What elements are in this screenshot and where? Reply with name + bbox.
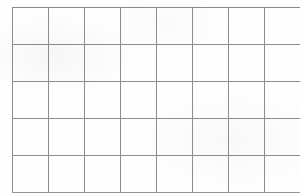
- grid-cell[interactable]: [229, 156, 265, 193]
- grid-cell[interactable]: [265, 45, 301, 82]
- grid-row: [13, 156, 301, 193]
- grid-cell[interactable]: [121, 156, 157, 193]
- blank-grid-table: [12, 7, 300, 193]
- grid-cell[interactable]: [121, 45, 157, 82]
- grid-cell[interactable]: [49, 8, 85, 45]
- grid-cell[interactable]: [193, 82, 229, 119]
- grid-cell[interactable]: [265, 82, 301, 119]
- grid-row: [13, 119, 301, 156]
- grid-cell[interactable]: [157, 119, 193, 156]
- grid-cell[interactable]: [193, 45, 229, 82]
- grid-cell[interactable]: [85, 156, 121, 193]
- grid-cell[interactable]: [49, 156, 85, 193]
- grid-cell[interactable]: [121, 119, 157, 156]
- grid-cell[interactable]: [157, 8, 193, 45]
- grid-cell[interactable]: [157, 82, 193, 119]
- grid-cell[interactable]: [49, 45, 85, 82]
- grid-cell[interactable]: [229, 8, 265, 45]
- grid-sheet: [0, 0, 300, 195]
- grid-cell[interactable]: [13, 8, 49, 45]
- grid-cell[interactable]: [229, 82, 265, 119]
- grid-cell[interactable]: [49, 82, 85, 119]
- grid-cell[interactable]: [13, 82, 49, 119]
- grid-cell[interactable]: [265, 156, 301, 193]
- grid-cell[interactable]: [193, 119, 229, 156]
- grid-cell[interactable]: [121, 8, 157, 45]
- grid-cell[interactable]: [193, 8, 229, 45]
- grid-row: [13, 8, 301, 45]
- grid-cell[interactable]: [265, 8, 301, 45]
- grid-cell[interactable]: [157, 156, 193, 193]
- grid-cell[interactable]: [157, 45, 193, 82]
- grid-cell[interactable]: [265, 119, 301, 156]
- grid-cell[interactable]: [85, 119, 121, 156]
- grid-cell[interactable]: [229, 45, 265, 82]
- grid-cell[interactable]: [13, 156, 49, 193]
- grid-cell[interactable]: [193, 156, 229, 193]
- grid-cell[interactable]: [85, 8, 121, 45]
- grid-cell[interactable]: [49, 119, 85, 156]
- grid-cell[interactable]: [121, 82, 157, 119]
- grid-row: [13, 82, 301, 119]
- grid-cell[interactable]: [229, 119, 265, 156]
- grid-row: [13, 45, 301, 82]
- grid-cell[interactable]: [85, 82, 121, 119]
- grid-body: [13, 8, 301, 193]
- grid-cell[interactable]: [13, 119, 49, 156]
- grid-cell[interactable]: [13, 45, 49, 82]
- grid-cell[interactable]: [85, 45, 121, 82]
